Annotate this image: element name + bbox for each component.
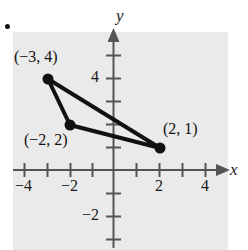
point-label-2-1: (2, 1) [163, 120, 198, 138]
vertex-point-b [65, 120, 76, 131]
y-axis-label: y [116, 6, 124, 26]
x-tick-label-neg2: −2 [61, 177, 78, 195]
y-tick-label-4: 4 [91, 68, 99, 86]
x-tick-label-4: 4 [201, 177, 209, 195]
point-label-neg2-2: (−2, 2) [24, 131, 68, 149]
point-label-neg3-4: (−3, 4) [14, 48, 58, 66]
y-tick-label-neg2: −2 [82, 206, 99, 224]
x-tick-label-2: 2 [155, 177, 163, 195]
vertex-point-a [43, 74, 54, 85]
graph-canvas [0, 0, 248, 250]
coordinate-plane-figure: y x −4 −2 2 4 4 −2 (−3, 4) (−2, 2) (2, 1… [0, 0, 248, 250]
x-axis-label: x [230, 160, 238, 180]
vertex-point-c [155, 143, 166, 154]
x-tick-label-neg4: −4 [15, 177, 32, 195]
